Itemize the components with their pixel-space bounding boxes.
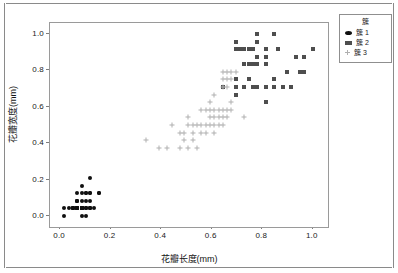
chart-figure: 0.00.20.40.60.81.0 0.00.20.40.60.81.0 花瓣… xyxy=(0,0,398,273)
data-point-series-1 xyxy=(80,184,84,188)
data-point-series-3 xyxy=(225,115,230,120)
data-point-series-3 xyxy=(182,130,187,135)
data-point-series-2 xyxy=(255,40,259,44)
data-point-series-1 xyxy=(97,191,101,195)
x-tick-label: 0.0 xyxy=(53,231,65,240)
data-point-series-2 xyxy=(255,32,259,36)
data-point-series-2 xyxy=(255,85,259,89)
legend-marker-filled-circle-icon xyxy=(345,31,352,35)
data-point-series-1 xyxy=(75,199,79,203)
legend-entry-3[interactable]: 簇 3 xyxy=(344,48,387,57)
x-tick-label: 1.0 xyxy=(306,231,318,240)
data-point-series-2 xyxy=(251,47,255,51)
legend-entry-label: 簇 3 xyxy=(354,49,367,57)
data-point-series-3 xyxy=(242,115,247,120)
data-point-series-2 xyxy=(251,85,255,89)
y-tick-label: 0.2 xyxy=(20,174,44,183)
data-point-series-3 xyxy=(143,138,148,143)
x-axis-title: 花瓣长度(mm) xyxy=(0,252,378,265)
data-point-series-2 xyxy=(276,47,280,51)
data-point-series-1 xyxy=(84,191,88,195)
data-point-series-2 xyxy=(234,77,238,81)
y-tick-label: 0.0 xyxy=(20,211,44,220)
data-point-series-1 xyxy=(88,191,92,195)
data-point-series-3 xyxy=(186,115,191,120)
legend-marker-plus-icon xyxy=(344,49,351,56)
data-point-series-1 xyxy=(62,214,66,218)
data-point-series-1 xyxy=(75,206,79,210)
data-point-series-3 xyxy=(220,123,225,128)
data-point-series-1 xyxy=(92,206,96,210)
y-tick-label: 1.0 xyxy=(20,28,44,37)
data-point-series-1 xyxy=(88,206,92,210)
data-point-series-3 xyxy=(233,69,238,74)
data-point-series-2 xyxy=(285,70,289,74)
data-point-series-1 xyxy=(88,199,92,203)
data-point-series-3 xyxy=(203,130,208,135)
data-point-series-2 xyxy=(264,55,268,59)
data-point-series-2 xyxy=(234,93,238,97)
legend-entries: 簇 1簇 2簇 3 xyxy=(344,28,387,57)
data-point-series-1 xyxy=(80,214,84,218)
legend-entry-2[interactable]: 簇 2 xyxy=(344,38,387,47)
data-point-series-2 xyxy=(242,62,246,66)
x-tick-label: 0.6 xyxy=(205,231,217,240)
legend-entry-label: 簇 2 xyxy=(356,39,369,47)
data-point-series-3 xyxy=(178,145,183,150)
plot-area xyxy=(49,22,329,228)
data-point-series-3 xyxy=(199,107,204,112)
legend-marker-filled-square-icon xyxy=(345,41,352,45)
data-point-series-2 xyxy=(281,85,285,89)
legend-entry-label: 簇 1 xyxy=(356,29,369,37)
y-axis-title: 花瓣宽度(mm) xyxy=(6,45,19,185)
data-point-series-2 xyxy=(294,55,298,59)
figure-border-top xyxy=(6,3,392,4)
y-tick-label: 0.8 xyxy=(20,65,44,74)
data-point-series-2 xyxy=(272,77,276,81)
x-tick-label: 0.2 xyxy=(104,231,116,240)
data-point-series-3 xyxy=(212,92,217,97)
data-point-series-3 xyxy=(195,145,200,150)
data-point-series-2 xyxy=(247,77,251,81)
data-point-series-3 xyxy=(186,145,191,150)
figure-border-bottom xyxy=(6,267,392,268)
y-tick-label: 0.4 xyxy=(20,138,44,147)
data-point-series-3 xyxy=(156,145,161,150)
data-point-series-2 xyxy=(242,85,246,89)
data-point-series-3 xyxy=(165,145,170,150)
data-point-series-1 xyxy=(88,176,92,180)
data-point-series-2 xyxy=(302,70,306,74)
data-point-series-1 xyxy=(80,206,84,210)
data-point-series-1 xyxy=(80,199,84,203)
data-point-series-3 xyxy=(169,123,174,128)
data-point-series-2 xyxy=(264,100,268,104)
data-point-series-2 xyxy=(264,47,268,51)
legend-entry-1[interactable]: 簇 1 xyxy=(344,28,387,37)
data-point-series-2 xyxy=(302,55,306,59)
data-point-series-3 xyxy=(229,100,234,105)
data-point-series-3 xyxy=(182,138,187,143)
data-point-series-1 xyxy=(84,206,88,210)
data-point-series-2 xyxy=(234,85,238,89)
data-point-series-1 xyxy=(62,206,66,210)
data-point-series-2 xyxy=(238,47,242,51)
x-tick-label: 0.4 xyxy=(154,231,166,240)
data-point-series-3 xyxy=(229,107,234,112)
data-point-series-2 xyxy=(255,62,259,66)
data-point-series-2 xyxy=(255,55,259,59)
data-point-series-3 xyxy=(190,130,195,135)
data-point-series-2 xyxy=(272,32,276,36)
legend-title: 簇 xyxy=(344,18,387,26)
data-point-series-3 xyxy=(190,138,195,143)
data-point-series-3 xyxy=(212,130,217,135)
data-point-series-2 xyxy=(289,85,293,89)
data-point-series-2 xyxy=(272,85,276,89)
data-point-series-2 xyxy=(251,62,255,66)
x-tick-label: 0.8 xyxy=(255,231,267,240)
chart-legend: 簇 簇 1簇 2簇 3 xyxy=(339,14,392,63)
figure-border-right xyxy=(393,3,394,268)
y-tick-label: 0.6 xyxy=(20,101,44,110)
data-point-series-2 xyxy=(264,62,268,66)
data-point-series-1 xyxy=(84,214,88,218)
data-point-series-2 xyxy=(311,47,315,51)
